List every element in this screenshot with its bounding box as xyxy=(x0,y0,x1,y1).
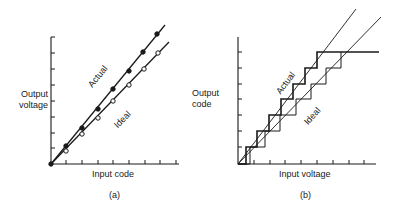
panel-b-x-axis-label: Input voltage xyxy=(279,169,331,180)
panel-a-x-axis-label: Input code xyxy=(92,169,134,180)
panel-a-y-ticks xyxy=(51,37,55,148)
panel-a-y-label-line2: voltage xyxy=(8,100,48,111)
panel-b-axes xyxy=(238,37,376,164)
panel-a-x-ticks xyxy=(66,160,176,164)
panel-a-y-axis-label: Output voltage xyxy=(8,89,48,111)
panel-a-ideal-line xyxy=(51,42,169,164)
panel-b-y-label-line2: code xyxy=(192,99,232,110)
panel-a-caption: (a) xyxy=(109,190,120,200)
panel-a-y-label-line1: Output xyxy=(8,89,48,100)
panel-b-actual-line xyxy=(238,9,356,164)
panel-b-x-ticks xyxy=(254,160,364,164)
panel-b-ideal-line xyxy=(238,17,381,164)
panel-b-y-ticks xyxy=(238,52,242,147)
panel-b-y-label-line1: Output xyxy=(192,88,232,99)
panel-a-actual-line xyxy=(51,25,165,164)
panel-a-plot xyxy=(49,25,179,166)
panel-b-plot xyxy=(238,9,381,164)
panel-b-y-axis-label: Output code xyxy=(192,88,232,110)
panel-b-caption: (b) xyxy=(300,190,311,200)
